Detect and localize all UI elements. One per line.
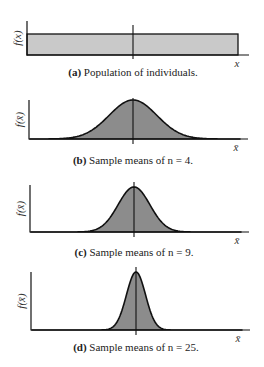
caption-label: (b) [73,154,87,167]
caption-label: (a) [68,66,81,79]
caption-label: (d) [73,341,87,354]
caption-label: (c) [75,246,88,259]
caption-text: Sample means of n = 9. [87,246,194,258]
caption: (d) Sample means of n = 25. [73,341,199,354]
x-axis-label: x̄ [235,332,241,344]
normal-curve-area [31,187,241,232]
caption-text: Sample means of n = 4. [86,154,193,166]
panel-d: f(x̄) x̄ (d) Sample means of n = 25. [15,267,250,354]
y-axis-label: f(x̄) [15,293,28,309]
x-axis-label: x̄ [234,234,240,246]
panel-b: f(x̄) x̄ (b) Sample means of n = 4. [13,98,248,167]
normal-curve-area [30,100,240,139]
y-axis-label: f(x) [11,30,24,46]
x-axis-label: x [234,57,240,69]
caption-text: Population of individuals. [81,66,198,78]
panel-a: f(x) x (a) Population of individuals. [11,21,249,79]
y-axis-label: f(x̄) [14,201,27,217]
caption: (a) Population of individuals. [68,66,198,79]
caption-text: Sample means of n = 25. [87,341,199,353]
y-axis-label: f(x̄) [13,112,26,128]
normal-curve-area [32,272,242,330]
caption: (c) Sample means of n = 9. [75,246,194,259]
caption: (b) Sample means of n = 4. [73,154,193,167]
sampling-distribution-figure: f(x) x (a) Population of individuals. f(… [0,0,264,367]
x-axis-label: x̄ [233,141,239,153]
panel-c: f(x̄) x̄ (c) Sample means of n = 9. [14,182,249,259]
